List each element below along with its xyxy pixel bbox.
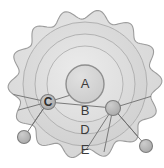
- diagram-canvas: A B D E C: [0, 0, 164, 168]
- node-bottom-right: [140, 140, 153, 153]
- ring-label-b: B: [81, 103, 90, 118]
- node-bottom-left: [18, 131, 31, 144]
- ring-label-a: A: [81, 76, 90, 91]
- ring-label-d: D: [80, 122, 89, 137]
- node-right: [106, 101, 121, 116]
- ring-label-e: E: [81, 142, 90, 157]
- node-label-c: C: [44, 95, 53, 109]
- concentric-cloud-diagram: A B D E C: [0, 0, 164, 168]
